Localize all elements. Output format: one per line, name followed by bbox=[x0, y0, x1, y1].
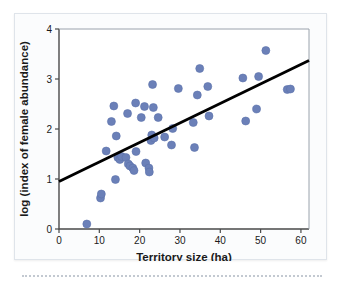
y-axis-tick-label: 1 bbox=[46, 174, 52, 185]
x-axis-tick-label: 20 bbox=[134, 235, 146, 246]
y-axis-tick-label: 2 bbox=[46, 124, 52, 135]
data-point bbox=[130, 167, 138, 175]
y-axis-title: log (index of female abundance) bbox=[18, 41, 30, 217]
data-point bbox=[190, 144, 198, 152]
data-point bbox=[149, 81, 157, 89]
data-point bbox=[286, 85, 294, 93]
data-point bbox=[255, 73, 263, 81]
data-point bbox=[112, 132, 120, 140]
data-point bbox=[111, 176, 119, 184]
data-point bbox=[145, 168, 153, 176]
data-point bbox=[168, 141, 176, 149]
x-axis-tick-label: 40 bbox=[215, 235, 227, 246]
data-point bbox=[83, 220, 91, 228]
data-point bbox=[253, 105, 261, 113]
data-point bbox=[107, 118, 115, 126]
data-point bbox=[204, 83, 212, 91]
data-point bbox=[110, 102, 118, 110]
y-axis-tick-label: 0 bbox=[46, 224, 52, 235]
data-point bbox=[189, 119, 197, 127]
x-axis-tick-label: 50 bbox=[255, 235, 267, 246]
data-point bbox=[149, 104, 157, 112]
data-point bbox=[174, 85, 182, 93]
data-point bbox=[102, 147, 110, 155]
data-point bbox=[196, 65, 204, 73]
data-point bbox=[132, 148, 140, 156]
data-point bbox=[205, 112, 213, 120]
data-point bbox=[239, 74, 247, 82]
x-axis-tick-label: 30 bbox=[174, 235, 186, 246]
data-point bbox=[161, 133, 169, 141]
data-point bbox=[154, 114, 162, 122]
data-point bbox=[137, 114, 145, 122]
bottom-dotted-divider bbox=[22, 275, 322, 279]
x-axis-tick-label: 10 bbox=[94, 235, 106, 246]
y-axis-tick-label: 3 bbox=[46, 74, 52, 85]
data-point bbox=[97, 190, 105, 198]
data-point bbox=[193, 91, 201, 99]
x-axis-tick-label: 60 bbox=[295, 235, 307, 246]
scatter-plot: 012340102030405060Territory size (ha)log… bbox=[15, 14, 328, 261]
data-point bbox=[124, 110, 132, 118]
x-axis-title: Territory size (ha) bbox=[136, 251, 232, 261]
data-point bbox=[242, 117, 250, 125]
x-axis-tick-label: 0 bbox=[56, 235, 62, 246]
data-point bbox=[140, 103, 148, 111]
data-point bbox=[262, 47, 270, 55]
data-point bbox=[132, 99, 140, 107]
y-axis-tick-label: 4 bbox=[46, 24, 52, 35]
figure-card: 012340102030405060Territory size (ha)log… bbox=[14, 13, 327, 260]
